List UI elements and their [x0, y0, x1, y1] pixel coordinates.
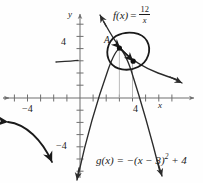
intersection-point-b — [131, 59, 136, 64]
x-axis-label: x — [158, 101, 162, 110]
hand-annotations-group — [8, 33, 149, 162]
curve-f-left-branch — [56, 60, 78, 62]
function-label-g: g(x) = −(x − 3)2 + 4 — [96, 153, 187, 166]
y-axis-label: y — [68, 10, 72, 19]
x-tick-label-neg4: −4 — [22, 104, 33, 114]
function-label-f-numerator: 12 — [139, 5, 150, 15]
function-label-f-denominator: x — [139, 15, 150, 24]
y-tick-label-4: 4 — [61, 37, 66, 47]
function-label-f: f(x)=12x — [113, 5, 150, 25]
function-label-g-suffix: + 4 — [168, 154, 186, 166]
curve-f-upper-arrow — [100, 15, 106, 26]
annotation-corner-curved-arrow — [8, 122, 52, 162]
function-label-f-equals: = — [130, 9, 136, 21]
x-tick-label-4: 4 — [133, 104, 138, 114]
curve-f-right-branch — [104, 22, 178, 80]
function-label-f-name: f(x) — [113, 9, 128, 21]
function-label-g-prefix: g(x) = −(x − 3) — [96, 154, 165, 166]
function-label-f-fraction: 12x — [139, 5, 150, 25]
y-tick-label-neg4: −4 — [56, 141, 67, 151]
point-label-a: A — [104, 36, 110, 46]
intersection-point-a — [117, 45, 122, 50]
curve-f-lower-arrow — [170, 77, 182, 83]
math-graph-figure: y x 4 −4 −4 4 A f(x)=12x g(x) = −(x − 3)… — [0, 0, 203, 183]
